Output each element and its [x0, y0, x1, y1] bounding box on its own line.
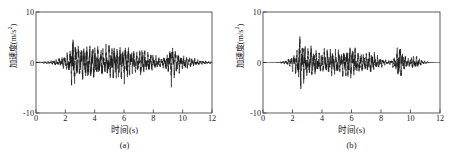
y-axis-label-exponent: 2 — [234, 27, 240, 30]
xtick-label: 8 — [151, 114, 155, 123]
ytick-label: 10 — [26, 8, 34, 17]
xtick-label: 4 — [93, 114, 97, 123]
xtick-label: 10 — [179, 114, 187, 123]
panel-a: 10 0 -10 0 2 4 6 8 10 12 加速度(m/s2) 时间(s)… — [0, 0, 228, 162]
xtick-label: 8 — [379, 114, 383, 123]
y-axis-label-text: 加速度(m/s — [236, 30, 245, 69]
panel-b: 10 0 -10 0 2 4 6 8 10 12 加速度(m/s2) 时间(s)… — [229, 0, 457, 162]
figure-two-acceleration-time-histories: 10 0 -10 0 2 4 6 8 10 12 加速度(m/s2) 时间(s)… — [0, 0, 457, 162]
y-axis-label: 加速度(m/s2) — [233, 10, 245, 82]
xtick-label: 12 — [208, 114, 216, 123]
panel-caption-a: (a) — [36, 140, 213, 150]
ytick-label: -10 — [23, 109, 34, 118]
y-axis-label-tail: ) — [236, 24, 245, 27]
y-axis-label: 加速度(m/s2) — [6, 10, 18, 82]
ytick-label: 0 — [30, 58, 34, 67]
xtick-label: 0 — [261, 114, 265, 123]
y-axis-label-text: 加速度(m/s — [9, 30, 18, 69]
xtick-label: 6 — [122, 114, 126, 123]
plot-a-canvas — [0, 0, 228, 162]
ytick-label: 10 — [253, 8, 261, 17]
x-axis-label: 时间(s) — [36, 123, 213, 135]
xtick-label: 6 — [349, 114, 353, 123]
xtick-label: 12 — [436, 114, 444, 123]
xtick-label: 2 — [63, 114, 67, 123]
plot-b-canvas — [229, 0, 457, 162]
ytick-label: 0 — [257, 58, 261, 67]
x-axis-label: 时间(s) — [263, 123, 440, 135]
ytick-label: -10 — [250, 109, 261, 118]
xtick-label: 0 — [34, 114, 38, 123]
panel-caption-b: (b) — [263, 140, 440, 150]
xtick-label: 4 — [320, 114, 324, 123]
y-axis-label-tail: ) — [9, 24, 18, 27]
y-axis-label-exponent: 2 — [7, 27, 13, 30]
xtick-label: 10 — [406, 114, 414, 123]
xtick-label: 2 — [290, 114, 294, 123]
